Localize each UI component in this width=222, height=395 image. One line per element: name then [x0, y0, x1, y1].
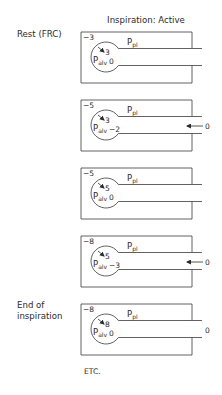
- recoil-arrow-icon: [98, 183, 104, 188]
- lung-panel: −5Ppl5Palv0: [81, 168, 202, 219]
- recoil-value: 8: [105, 320, 110, 329]
- ppl-label: Ppl: [127, 241, 138, 253]
- ppl-label: Ppl: [127, 309, 138, 321]
- recoil-arrow-icon: [98, 47, 104, 52]
- alveolar-pressure-value: 0: [109, 193, 114, 202]
- alveolus-and-airway: [91, 110, 202, 140]
- recoil-arrow-icon: [98, 115, 104, 120]
- ppl-label: Ppl: [127, 105, 138, 117]
- recoil-value: 3: [105, 48, 110, 57]
- lung-panel: −8Ppl5Palv−30: [81, 236, 210, 287]
- pleural-pressure-value: −5: [83, 101, 94, 110]
- alveolus-and-airway: [91, 246, 202, 276]
- mouth-pressure-value: 0: [205, 258, 210, 267]
- alveolar-pressure-value: 0: [109, 329, 114, 338]
- alveolar-pressure-value: −2: [109, 125, 120, 134]
- recoil-value: 5: [105, 252, 110, 261]
- pleural-pressure-value: −5: [83, 169, 94, 178]
- recoil-arrow-icon: [98, 251, 104, 256]
- lung-panel: −3Ppl3Palv0: [81, 32, 202, 83]
- recoil-value: 5: [105, 184, 110, 193]
- mouth-pressure-value: 0: [205, 326, 210, 335]
- lung-panel: −5Ppl3Palv−20: [81, 100, 210, 151]
- ppl-label: Ppl: [127, 37, 138, 49]
- alveolus-and-airway: [91, 42, 202, 72]
- lung-panel: −8Ppl8Palv00: [81, 304, 210, 355]
- pleural-pressure-value: −3: [83, 33, 94, 42]
- alveolar-pressure-value: 0: [109, 57, 114, 66]
- pleural-pressure-value: −8: [83, 237, 94, 246]
- recoil-value: 3: [105, 116, 110, 125]
- mouth-pressure-value: 0: [205, 122, 210, 131]
- alveolar-pressure-value: −3: [109, 261, 120, 270]
- pleural-pressure-value: −8: [83, 305, 94, 314]
- lung-pressure-diagram: −3Ppl3Palv0−5Ppl3Palv−20−5Ppl5Palv0−8Ppl…: [0, 0, 222, 395]
- alveolus-and-airway: [91, 178, 202, 208]
- ppl-label: Ppl: [127, 173, 138, 185]
- recoil-arrow-icon: [98, 319, 104, 324]
- alveolus-and-airway: [91, 314, 202, 344]
